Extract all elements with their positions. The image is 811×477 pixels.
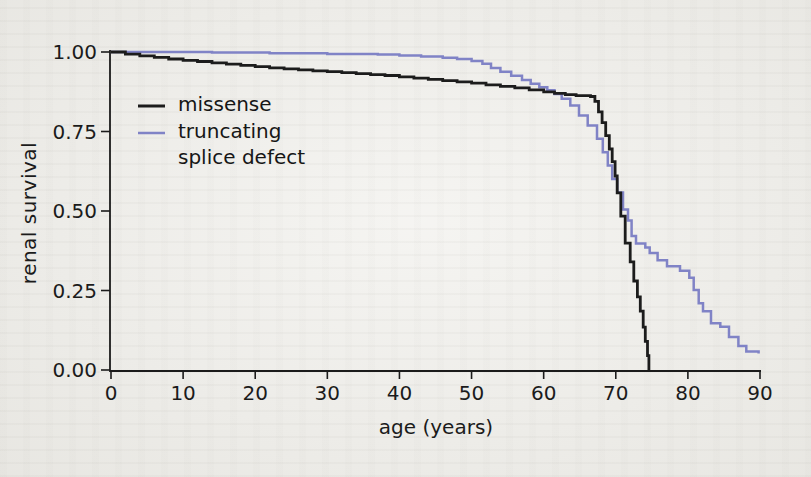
y-tick-label: 0.75 bbox=[52, 120, 97, 144]
legend-label-splice-defect: splice defect bbox=[178, 144, 305, 170]
legend: missense truncating splice defect bbox=[138, 90, 305, 170]
survival-chart-svg: 1.000.750.500.250.00 0102030405060708090 bbox=[0, 0, 811, 477]
legend-label-missense: missense bbox=[178, 91, 272, 117]
legend-item-missense: missense bbox=[138, 90, 305, 117]
y-tick-label: 0.50 bbox=[52, 199, 97, 223]
y-tick-label: 0.25 bbox=[52, 279, 97, 303]
y-tick-label: 0.00 bbox=[52, 358, 97, 382]
x-tick-label: 90 bbox=[747, 381, 772, 405]
x-tick-label: 70 bbox=[603, 381, 628, 405]
x-tick-label: 30 bbox=[315, 381, 340, 405]
legend-item-truncating: truncating bbox=[138, 117, 305, 144]
missense-line-swatch bbox=[138, 94, 165, 113]
legend-label-truncating: truncating bbox=[178, 118, 281, 144]
truncating-line-swatch bbox=[138, 121, 165, 140]
x-tick-labels: 0102030405060708090 bbox=[105, 371, 773, 405]
x-tick-label: 10 bbox=[170, 381, 195, 405]
y-tick-labels: 1.000.750.500.250.00 bbox=[52, 40, 110, 382]
y-axis-title: renal survival bbox=[17, 128, 41, 298]
y-tick-label: 1.00 bbox=[52, 40, 97, 64]
km-survival-figure: 1.000.750.500.250.00 0102030405060708090… bbox=[0, 0, 811, 477]
x-tick-label: 60 bbox=[531, 381, 556, 405]
x-tick-label: 0 bbox=[105, 381, 118, 405]
truncating-dash-icon bbox=[138, 130, 165, 136]
x-axis-title: age (years) bbox=[336, 415, 536, 439]
missense-dash-icon bbox=[138, 103, 165, 109]
x-tick-label: 50 bbox=[459, 381, 484, 405]
x-tick-label: 40 bbox=[387, 381, 412, 405]
x-tick-label: 80 bbox=[675, 381, 700, 405]
x-tick-label: 20 bbox=[242, 381, 267, 405]
